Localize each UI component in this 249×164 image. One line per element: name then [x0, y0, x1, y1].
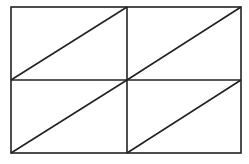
grid-diagram [0, 0, 249, 164]
diagonal-bottom-right [127, 80, 241, 153]
diagonal-bottom-left [11, 80, 127, 153]
diagonal-top-right [127, 7, 241, 80]
diagonal-top-left [11, 7, 127, 80]
